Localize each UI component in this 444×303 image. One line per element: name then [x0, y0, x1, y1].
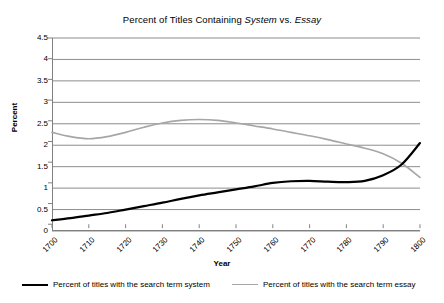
y-tick-label: 1	[8, 184, 48, 192]
x-tick-label: 1750	[220, 236, 244, 260]
x-axis-title: Year	[0, 259, 444, 268]
legend-line-icon	[22, 284, 48, 286]
y-tick-label: 4.5	[8, 34, 48, 42]
chart-legend: Percent of titles with the search term s…	[0, 280, 444, 298]
x-tick-label: 1710	[72, 236, 96, 260]
legend-line-icon	[232, 284, 258, 285]
x-tick-label: 1760	[256, 236, 280, 260]
chart-figure: Percent of Titles Containing System vs. …	[0, 0, 444, 303]
legend-entry[interactable]: Percent of titles with the search term s…	[22, 280, 210, 289]
y-tick-label: 0	[8, 227, 48, 235]
legend-label: Percent of titles with the search term e…	[263, 280, 416, 289]
y-tick-label: 3.5	[8, 77, 48, 85]
x-tick-label: 1700	[36, 236, 60, 260]
title-term: Essay	[295, 14, 321, 25]
x-tick-label: 1790	[367, 236, 391, 260]
axis-tick-marks	[52, 38, 420, 231]
title-term: System	[245, 14, 277, 25]
legend-label: Percent of titles with the search term s…	[53, 280, 210, 289]
y-tick-label: 4	[8, 55, 48, 63]
x-tick-label: 1730	[146, 236, 170, 260]
y-tick-label: 0.5	[8, 206, 48, 214]
y-axis-title: Percent	[10, 88, 19, 148]
chart-title: Percent of Titles Containing System vs. …	[0, 14, 444, 25]
x-tick-label: 1770	[293, 236, 317, 260]
plot-area	[52, 38, 420, 231]
x-axis-tick-labels: 1700171017201730174017501760177017801790…	[52, 231, 420, 261]
x-tick-label: 1800	[404, 236, 428, 260]
legend-entry[interactable]: Percent of titles with the search term e…	[232, 280, 416, 289]
title-text: vs.	[277, 14, 295, 25]
x-tick-label: 1780	[330, 236, 354, 260]
y-tick-label: 1.5	[8, 163, 48, 171]
x-tick-label: 1720	[109, 236, 133, 260]
title-text: Percent of Titles Containing	[123, 14, 245, 25]
x-tick-label: 1740	[183, 236, 207, 260]
y-axis-tick-labels: 00.511.522.533.544.5	[0, 38, 48, 231]
